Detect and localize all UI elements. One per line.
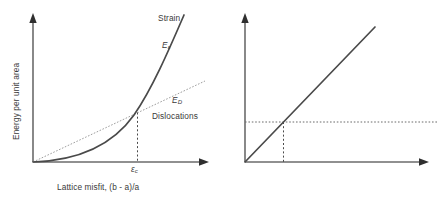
left-strain-curve [33,15,184,162]
right-y-axis-arrowhead [241,13,248,23]
left-strain-annotation: Strain [158,14,180,23]
left-y-axis-arrowhead [29,13,36,23]
left-x-axis-label-a2: a [135,182,140,192]
chart-panel-right: Energy per unit area Film thickness, h E… [220,0,440,207]
figure-root: Energy per unit area Lattice misfit, (b … [0,0,440,207]
chart-panel-left: Energy per unit area Lattice misfit, (b … [0,0,220,207]
right-panel-plot [220,0,440,207]
left-y-axis-label: Energy per unit area [12,63,21,140]
left-dislocations-annotation: Dislocations [152,112,198,121]
left-panel-plot [0,0,220,207]
left-dislocation-energy-subscript: D [178,98,183,105]
left-strain-energy-subscript: ε [168,43,171,50]
left-dislocation-energy-symbol: ED [172,96,182,105]
left-x-axis-label: Lattice misfit, (b - a)/a [57,183,139,192]
right-x-axis-arrowhead [419,158,429,165]
left-critical-misfit-tick-label: εc [131,165,138,174]
left-x-axis-label-text: Lattice misfit, ( [57,182,112,192]
left-x-axis-label-mid: - [117,182,125,192]
left-dislocation-line [33,81,205,162]
left-x-axis-arrowhead [199,158,209,165]
right-strain-energy-line [245,27,375,162]
left-critical-misfit-subscript: c [135,167,138,174]
left-strain-energy-symbol: Eε [162,41,170,50]
